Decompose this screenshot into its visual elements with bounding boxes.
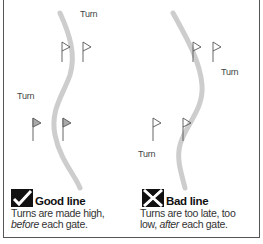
turn-label: Turn xyxy=(80,9,97,19)
bad-line-title: Bad line xyxy=(166,195,208,207)
flag-icon xyxy=(62,42,91,62)
bad-ski-line xyxy=(173,13,202,188)
good-line-caption: Turns are made high, before each gate. xyxy=(11,208,104,230)
check-icon xyxy=(11,189,33,207)
turn-label: Turn xyxy=(138,149,155,159)
bad-line-caption: Turns are too late, too low, after each … xyxy=(140,208,235,230)
turn-label: Turn xyxy=(221,67,238,77)
good-line-title: Good line xyxy=(35,195,85,207)
cross-icon xyxy=(142,189,164,207)
good-ski-line xyxy=(54,13,80,188)
turn-label: Turn xyxy=(17,91,34,101)
